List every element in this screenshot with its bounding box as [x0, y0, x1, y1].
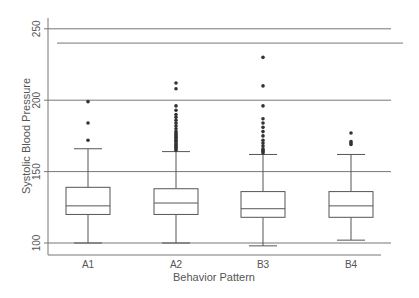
axes	[48, 18, 381, 255]
x-tick-label: B4	[345, 259, 358, 270]
y-tick-label: 250	[31, 20, 42, 37]
outlier-point	[174, 81, 178, 85]
outlier-point	[261, 121, 265, 125]
y-tick-label: 200	[31, 91, 42, 108]
y-tick-label: 100	[31, 234, 42, 251]
outlier-point	[261, 134, 265, 138]
outlier-point	[174, 108, 178, 112]
box-B3	[241, 56, 285, 246]
box-plot-chart: 100150200250 A1A2B3B4 Behavior Pattern S…	[0, 0, 419, 298]
outlier-point	[261, 56, 265, 60]
box-B4	[329, 131, 373, 240]
outlier-point	[86, 121, 90, 125]
outlier-point	[174, 104, 178, 108]
outlier-point	[174, 87, 178, 91]
outlier-point	[349, 131, 353, 135]
x-axis-ticks: A1A2B3B4	[82, 259, 358, 270]
iqr-box	[154, 189, 198, 215]
outlier-point	[261, 126, 265, 130]
iqr-box	[329, 192, 373, 218]
boxes	[66, 56, 373, 246]
outlier-point	[261, 84, 265, 88]
box-A2	[154, 81, 198, 243]
outlier-point	[86, 100, 90, 104]
outlier-point	[261, 138, 265, 142]
iqr-box	[241, 192, 285, 218]
x-tick-label: A1	[82, 259, 95, 270]
y-axis-title: Systolic Blood Pressure	[20, 78, 32, 194]
outlier-point	[349, 140, 353, 144]
x-tick-label: B3	[257, 259, 270, 270]
y-tick-label: 150	[31, 163, 42, 180]
outlier-point	[86, 138, 90, 142]
y-axis-ticks: 100150200250	[31, 20, 48, 251]
outlier-point	[174, 113, 178, 117]
outlier-point	[261, 130, 265, 134]
iqr-box	[66, 187, 110, 214]
outlier-point	[261, 104, 265, 108]
outlier-point	[261, 117, 265, 121]
x-axis-title: Behavior Pattern	[173, 271, 255, 283]
x-tick-label: A2	[170, 259, 183, 270]
